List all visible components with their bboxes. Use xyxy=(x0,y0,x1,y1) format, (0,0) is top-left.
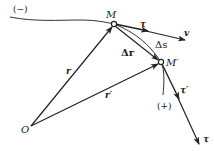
label-delta-r: Δr xyxy=(121,47,135,58)
label-delta-s: Δs xyxy=(155,39,167,50)
tangent-vector-tau-prime xyxy=(162,64,179,99)
label-M: M xyxy=(105,9,117,20)
label-tau: τ xyxy=(140,19,147,29)
label-r-prime: r′ xyxy=(105,90,113,100)
point-M-prime xyxy=(158,59,163,64)
label-r: r xyxy=(66,66,72,76)
position-vector-r xyxy=(31,27,112,126)
label-tau-shifted: τ xyxy=(203,134,210,144)
label-origin: O xyxy=(21,124,29,135)
tangent-vector-tau-shifted xyxy=(178,98,199,144)
label-tau-prime: τ′ xyxy=(180,85,189,95)
motion-diagram: (−) M τ v Δs Δr M′ r r′ (+) τ′ τ O xyxy=(0,0,214,151)
label-M-prime: M′ xyxy=(165,57,179,68)
diagram-canvas: (−) M τ v Δs Δr M′ r r′ (+) τ′ τ O xyxy=(0,0,214,151)
label-plus: (+) xyxy=(157,101,172,111)
label-v: v xyxy=(184,28,190,38)
point-M xyxy=(111,21,116,26)
position-vector-r-prime xyxy=(31,64,158,126)
label-minus: (−) xyxy=(13,4,28,14)
